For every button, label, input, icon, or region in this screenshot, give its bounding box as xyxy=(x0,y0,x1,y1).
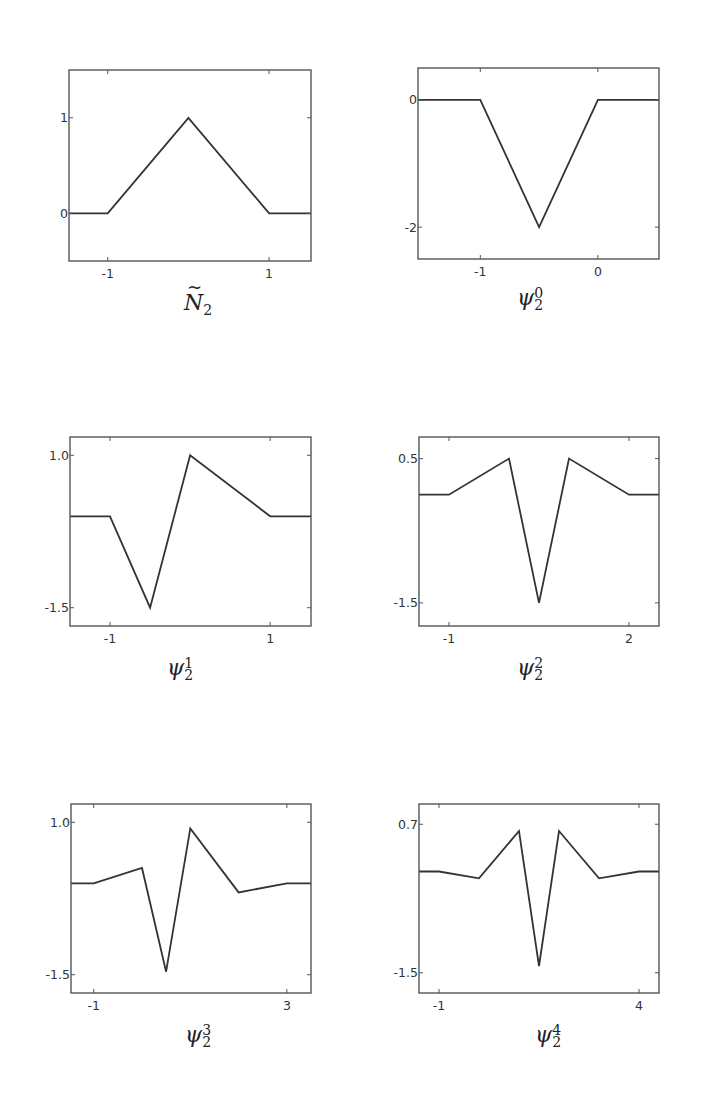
x-tick-label: -1 xyxy=(87,998,99,1013)
y-tick-label: -1.5 xyxy=(394,595,418,610)
x-tick-label: 1 xyxy=(266,631,274,646)
y-tick-label: 0 xyxy=(409,92,417,107)
plot-psi2_0: -100-2 xyxy=(405,68,659,279)
plot-psi2_1: -111.0-1.5 xyxy=(45,437,311,646)
y-tick-label: 0 xyxy=(60,206,68,221)
y-tick-label: 1.0 xyxy=(49,448,69,463)
y-tick-label: 0.5 xyxy=(398,451,418,466)
plot-psi2_4: -140.7-1.5 xyxy=(394,804,659,1013)
x-tick-label: 4 xyxy=(635,998,643,1013)
axes-frame xyxy=(70,437,311,626)
data-line xyxy=(69,118,311,214)
y-tick-label: 1.0 xyxy=(50,815,70,830)
data-line xyxy=(419,831,659,966)
y-tick-label: -1.5 xyxy=(394,965,418,980)
data-line xyxy=(70,455,311,607)
x-tick-label: -1 xyxy=(433,998,445,1013)
axes-frame xyxy=(71,804,311,993)
axes-frame xyxy=(69,70,311,261)
axes-frame xyxy=(418,68,659,259)
y-tick-label: -2 xyxy=(405,220,417,235)
data-line xyxy=(419,459,659,603)
plots-canvas: -1101-100-2-111.0-1.5-120.5-1.5-131.0-1.… xyxy=(0,0,704,1110)
data-line xyxy=(71,828,311,971)
x-tick-label: 3 xyxy=(283,998,291,1013)
data-line xyxy=(418,100,659,227)
x-tick-label: -1 xyxy=(101,266,113,281)
plot-psi2_2: -120.5-1.5 xyxy=(394,437,659,646)
y-tick-label: -1.5 xyxy=(45,600,69,615)
x-tick-label: -1 xyxy=(104,631,116,646)
plot-N2tilde: -1101 xyxy=(60,70,311,281)
y-tick-label: 1 xyxy=(60,110,68,125)
x-tick-label: 1 xyxy=(265,266,273,281)
y-tick-label: -1.5 xyxy=(46,967,70,982)
x-tick-label: 2 xyxy=(625,631,633,646)
x-tick-label: -1 xyxy=(443,631,455,646)
axes-frame xyxy=(419,437,659,626)
x-tick-label: -1 xyxy=(474,264,486,279)
y-tick-label: 0.7 xyxy=(398,817,418,832)
x-tick-label: 0 xyxy=(594,264,602,279)
plot-psi2_3: -131.0-1.5 xyxy=(46,804,311,1013)
